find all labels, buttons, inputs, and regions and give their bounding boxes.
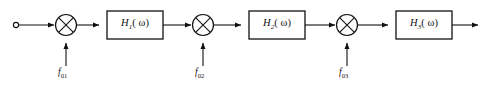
input-terminal-circle [13,22,18,27]
block-h1-arg: ( ω) [132,17,149,28]
block-h1-label: H1( ω) [107,18,163,31]
block-h1-letter: H [121,17,129,28]
osc-2-subscript: 02 [198,72,205,79]
diagram-vector-layer [0,0,487,89]
block-diagram-canvas: H1( ω) H2( ω) H3( ω) f01 f02 f03 [0,0,487,89]
block-h3-arg: ( ω) [421,17,438,28]
block-h3-letter: H [410,17,418,28]
osc-1-label: f01 [58,68,67,79]
osc-2-label: f02 [195,68,204,79]
block-h2-arg: ( ω) [274,17,291,28]
osc-1-subscript: 01 [61,72,68,79]
block-h2-letter: H [263,17,271,28]
osc-3-label: f03 [339,68,348,79]
block-h3-label: H3( ω) [396,18,452,31]
osc-3-subscript: 03 [342,72,349,79]
block-h2-label: H2( ω) [249,18,305,31]
